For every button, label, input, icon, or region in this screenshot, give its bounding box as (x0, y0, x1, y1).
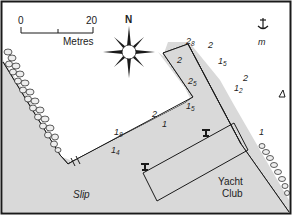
scale-unit-label: Metres (63, 36, 94, 47)
scale-end-label: 20 (86, 15, 98, 26)
depth-sounding: 2 (151, 109, 157, 119)
depth-sounding: 1 (259, 127, 264, 137)
yacht-club-label-line2: Club (222, 188, 243, 199)
slip-label: Slip (73, 189, 90, 200)
depth-sounding: 1 (162, 119, 167, 129)
depth-sounding: 2 (176, 55, 182, 65)
depth-sounding: 2 (242, 73, 248, 83)
mooring-label: m (258, 37, 266, 47)
yacht-club-label-line1: Yacht (218, 176, 243, 187)
north-label: N (125, 14, 132, 25)
scale-start-label: 0 (18, 15, 24, 26)
depth-sounding: 2 (207, 40, 213, 50)
harbour-chart: 0 20 Metres N m 28 2 2 15 (0, 0, 292, 215)
